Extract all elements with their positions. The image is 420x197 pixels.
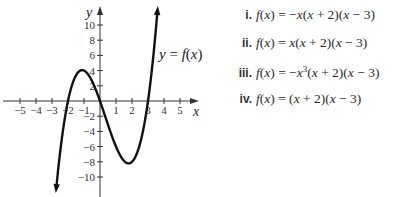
y-tick-label: −6 bbox=[83, 141, 95, 153]
choice-expression: f(x) = (x + 2)(x − 3) bbox=[256, 91, 361, 106]
choice-expression: f(x) = −x3(x + 2)(x − 3) bbox=[256, 65, 379, 80]
y-axis-label: y bbox=[84, 5, 93, 20]
x-tick-label: −3 bbox=[46, 104, 58, 116]
choice-iii[interactable]: iii.f(x) = −x3(x + 2)(x − 3) bbox=[226, 63, 379, 81]
function-graph: −5−4−3−2−112345 108642−2−4−6−8−10 x y y … bbox=[0, 0, 215, 197]
x-tick-label: 5 bbox=[177, 104, 183, 116]
x-axis-label: x bbox=[192, 104, 200, 119]
choice-iv[interactable]: iv.f(x) = (x + 2)(x − 3) bbox=[226, 91, 361, 107]
choice-ii[interactable]: ii.f(x) = x(x + 2)(x − 3) bbox=[226, 35, 367, 51]
y-tick-label: 8 bbox=[90, 34, 96, 46]
y-tick-label: −2 bbox=[83, 110, 95, 122]
y-tick-label: 6 bbox=[90, 49, 96, 61]
choice-number: iii. bbox=[226, 66, 252, 80]
choice-expression: f(x) = x(x + 2)(x − 3) bbox=[256, 35, 367, 50]
curve-arrow-up-icon bbox=[154, 6, 160, 15]
y-axis-arrow-icon bbox=[97, 6, 103, 15]
choice-number: i. bbox=[226, 8, 252, 22]
y-tick-label: 10 bbox=[84, 19, 96, 31]
y-tick-label: 4 bbox=[90, 65, 96, 77]
choice-expression: f(x) = −x(x + 2)(x − 3) bbox=[256, 7, 375, 22]
x-tick-label: 1 bbox=[113, 104, 119, 116]
curve-label: y = f(x) bbox=[157, 46, 202, 63]
curve-arrow-down-icon bbox=[53, 184, 59, 193]
curve-fx bbox=[56, 13, 157, 186]
choice-number: ii. bbox=[226, 36, 252, 50]
y-tick-label: −10 bbox=[78, 171, 96, 183]
y-tick-label: −4 bbox=[83, 125, 95, 137]
x-tick-label: 2 bbox=[129, 104, 135, 116]
choice-i[interactable]: i.f(x) = −x(x + 2)(x − 3) bbox=[226, 7, 375, 23]
y-tick-label: −8 bbox=[83, 156, 95, 168]
x-tick-label: −5 bbox=[14, 104, 26, 116]
x-tick-label: 4 bbox=[161, 104, 167, 116]
choice-number: iv. bbox=[226, 92, 252, 106]
x-tick-label: −4 bbox=[30, 104, 42, 116]
